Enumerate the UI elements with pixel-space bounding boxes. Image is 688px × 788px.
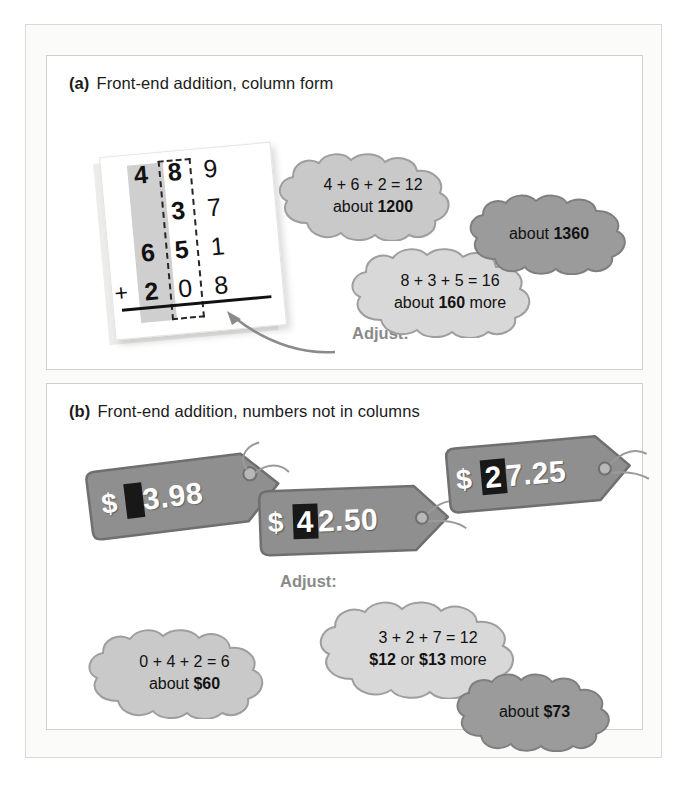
panel-a: (a)Front-end addition, column form 4 8 9 xyxy=(46,55,643,370)
digit-hundreds xyxy=(130,198,156,200)
digit-hundreds: 6 xyxy=(134,237,163,268)
front-end-sum-cloud-a: 4 + 6 + 2 = 12 about 1200 xyxy=(273,151,473,241)
cloud-line-1: 0 + 4 + 2 = 6 xyxy=(139,653,229,670)
cloud-line-2-prefix: about xyxy=(509,225,553,242)
cloud-line-2: about $73 xyxy=(499,701,570,723)
cloud-text: about 1360 xyxy=(499,223,599,245)
cloud-line-2: about $60 xyxy=(139,673,229,695)
digit-tens: 8 xyxy=(160,156,189,187)
price-tag-3: $ 27.25 xyxy=(437,428,647,518)
cloud-line-2-bold: 160 xyxy=(438,294,465,311)
plus-sign: + xyxy=(113,279,129,307)
cloud-line-2-mid: or xyxy=(396,651,419,668)
cloud-line-2: about 160 more xyxy=(394,292,506,314)
cloud-text: 0 + 4 + 2 = 6 about $60 xyxy=(129,651,239,694)
cloud-line-2-bold: 1360 xyxy=(553,225,589,242)
digit-ones: 7 xyxy=(200,192,229,223)
digit-tens: 3 xyxy=(164,195,193,226)
panel-b: (b)Front-end addition, numbers not in co… xyxy=(46,383,643,730)
cloud-line-2-prefix: about xyxy=(333,198,377,215)
digit-ones: 8 xyxy=(207,270,236,301)
panel-b-label: (b) xyxy=(69,402,90,420)
cloud-line-2-prefix: about xyxy=(394,294,438,311)
cloud-line-2-suffix: more xyxy=(446,651,487,668)
cloud-text: about $73 xyxy=(489,701,580,723)
price-tag-2: $ 42.50 xyxy=(251,480,468,559)
adjust-arrow-a xyxy=(197,306,347,361)
cloud-line-2-prefix: about xyxy=(499,703,543,720)
cloud-text: 8 + 3 + 5 = 16 about 160 more xyxy=(384,270,516,313)
digit-hundreds: 4 xyxy=(127,159,156,190)
final-estimate-cloud-a: about 1360 xyxy=(465,193,633,275)
final-estimate-cloud-b: about $73 xyxy=(452,672,617,752)
cloud-text: 4 + 6 + 2 = 12 about 1200 xyxy=(313,174,432,217)
digit-tens: 0 xyxy=(171,273,200,304)
cloud-line-2-bold: $60 xyxy=(193,675,220,692)
adjust-label-b: Adjust: xyxy=(280,572,337,591)
cloud-line-2: about 1200 xyxy=(323,196,422,218)
figure-outer-frame: (a)Front-end addition, column form 4 8 9 xyxy=(25,24,662,758)
digit-grid: 4 8 9 3 7 6 5 1 xyxy=(115,149,279,322)
cloud-line-2-bold: $12 xyxy=(369,651,396,668)
cloud-line-2: about 1360 xyxy=(509,223,589,245)
panel-a-title: (a)Front-end addition, column form xyxy=(69,74,333,93)
panel-a-title-text: Front-end addition, column form xyxy=(96,74,333,92)
cloud-line-1: 3 + 2 + 7 = 12 xyxy=(378,629,477,646)
cloud-line-2-suffix: more xyxy=(465,294,506,311)
cloud-line-2-prefix: about xyxy=(149,675,193,692)
tag-shape xyxy=(437,428,647,518)
cloud-line-1: 8 + 3 + 5 = 16 xyxy=(400,272,499,289)
panel-b-title: (b)Front-end addition, numbers not in co… xyxy=(69,402,420,421)
digit-ones: 1 xyxy=(203,231,232,262)
panel-b-title-text: Front-end addition, numbers not in colum… xyxy=(97,402,419,420)
tag-shape xyxy=(251,480,468,559)
digit-tens: 5 xyxy=(167,234,196,265)
digit-hundreds: 2 xyxy=(137,276,166,307)
cloud-line-2-bold: $73 xyxy=(543,703,570,720)
cloud-line-1: 4 + 6 + 2 = 12 xyxy=(323,176,422,193)
cloud-line-2-bold-2: $13 xyxy=(419,651,446,668)
cloud-line-2: $12 or $13 more xyxy=(369,649,486,671)
figure-page: (a)Front-end addition, column form 4 8 9 xyxy=(0,0,688,788)
cloud-line-2-bold: 1200 xyxy=(377,198,413,215)
panel-a-label: (a) xyxy=(69,74,89,92)
cloud-text: 3 + 2 + 7 = 12 $12 or $13 more xyxy=(359,627,496,670)
front-end-sum-cloud-b: 0 + 4 + 2 = 6 about $60 xyxy=(82,627,287,719)
digit-ones: 9 xyxy=(196,153,225,184)
